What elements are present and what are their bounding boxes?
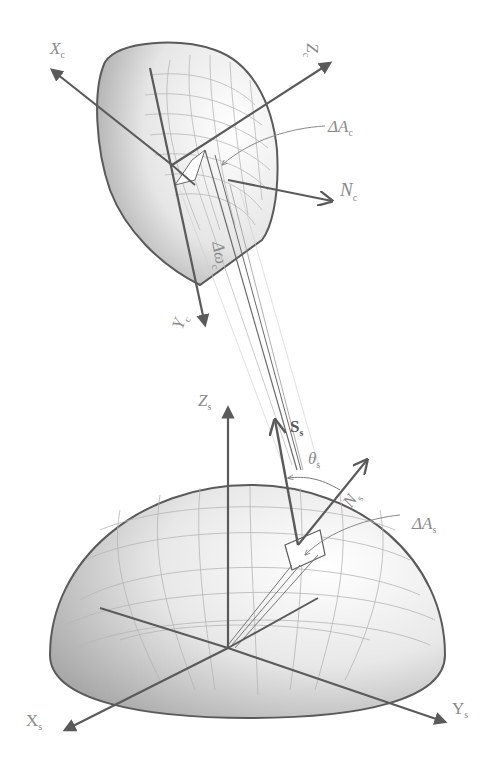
collector-area-label: ΔAc	[328, 118, 353, 138]
collector-x-axis-label: Xc	[50, 40, 65, 60]
collector-dish	[52, 43, 332, 470]
source-angle-label: θs	[308, 450, 320, 470]
theta-arc	[288, 477, 340, 490]
collector-solid-angle-label: Δωc	[206, 240, 231, 270]
collector-normal-label: Nc	[340, 180, 357, 203]
source-area-label: ΔAs	[412, 515, 436, 535]
source-direction-label: Ss	[290, 418, 303, 438]
collector-z-axis-label: Zc	[301, 43, 321, 57]
source-x-axis-label: Xs	[26, 712, 42, 732]
source-dome	[50, 408, 445, 730]
source-y-axis-label: Ys	[452, 700, 468, 720]
source-z-axis-label: Zs	[198, 392, 211, 412]
diagram-canvas	[0, 0, 496, 766]
